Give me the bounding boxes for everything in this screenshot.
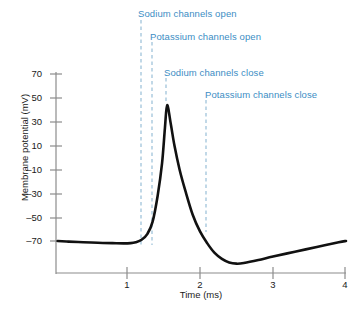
action-potential-curve (58, 105, 346, 264)
y-axis-title: Membrane potential (mV) (19, 78, 30, 218)
x-axis-title: Time (ms) (56, 289, 346, 300)
annotation-sodium-channels-close: Sodium channels close (164, 67, 264, 78)
annotation-potassium-channels-open: Potassium channels open (150, 31, 261, 42)
action-potential-figure: 70 50 30 10 –10 –30 –50 –70 1 2 3 4 Memb… (0, 0, 357, 312)
y-tick-label-neg70: –70 (13, 235, 42, 246)
annotation-sodium-channels-open: Sodium channels open (138, 8, 237, 19)
annotation-potassium-channels-close: Potassium channels close (205, 89, 317, 100)
chart-plot-area (0, 0, 357, 312)
